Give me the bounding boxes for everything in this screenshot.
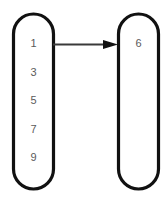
diagram-svg: 1 3 5 7 9 6	[0, 0, 167, 203]
diagram-canvas: 1 3 5 7 9 6	[0, 0, 167, 203]
left-capsule-item-1: 3	[30, 66, 36, 78]
left-capsule-item-2: 5	[30, 94, 36, 106]
right-capsule-item-0: 6	[135, 37, 141, 49]
arrowhead-icon	[103, 40, 118, 49]
left-capsule-item-3: 7	[30, 123, 36, 135]
left-capsule-item-0: 1	[30, 37, 36, 49]
left-capsule-item-4: 9	[30, 151, 36, 163]
arrow-left-to-right[interactable]	[53, 40, 118, 49]
